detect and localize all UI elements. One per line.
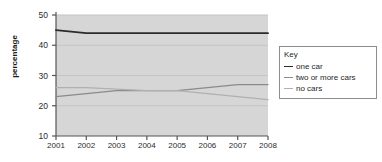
- y-tick-label: 40: [26, 40, 48, 50]
- legend: Key one cartwo or more carsno cars: [279, 46, 377, 99]
- y-tick-label: 50: [26, 10, 48, 20]
- x-tick-label: 2002: [71, 141, 101, 150]
- y-tick-label: 30: [26, 71, 48, 81]
- legend-item: no cars: [284, 83, 376, 94]
- x-tick-label: 2005: [162, 141, 192, 150]
- y-tick-label: 20: [26, 101, 48, 111]
- x-tick-label: 2006: [192, 141, 222, 150]
- x-tick-label: 2001: [41, 141, 71, 150]
- legend-line-icon: [284, 66, 293, 67]
- y-tick-label: 10: [26, 131, 48, 141]
- x-tick-label: 2003: [102, 141, 132, 150]
- line-chart: percentage 1020304050 200120022003200420…: [0, 0, 382, 162]
- x-tick-label: 2008: [253, 141, 283, 150]
- legend-label: no cars: [296, 83, 322, 94]
- legend-title: Key: [284, 50, 376, 60]
- legend-label: one car: [296, 61, 323, 72]
- legend-label: two or more cars: [296, 72, 356, 83]
- legend-line-icon: [284, 88, 293, 89]
- legend-line-icon: [284, 77, 293, 78]
- legend-item: two or more cars: [284, 72, 376, 83]
- legend-item: one car: [284, 61, 376, 72]
- legend-entries: one cartwo or more carsno cars: [284, 61, 376, 94]
- x-tick-label: 2004: [132, 141, 162, 150]
- x-tick-label: 2007: [223, 141, 253, 150]
